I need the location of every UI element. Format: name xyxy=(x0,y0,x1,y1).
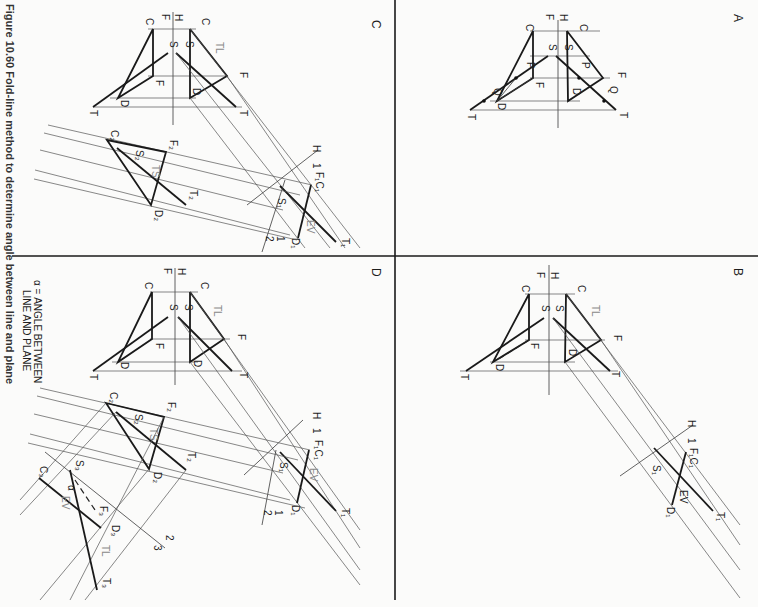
panel-b-label-s1: S₁ xyxy=(651,465,662,476)
panel-d-label-ff: F xyxy=(154,343,165,349)
panel-c-fold-1: 1 xyxy=(311,163,322,169)
panel-b-label-dt: D xyxy=(567,349,578,356)
panel-b-fold-f: F xyxy=(535,272,546,278)
panel-c-label-tl: TL xyxy=(214,42,225,54)
panel-d-fold-2: 2 xyxy=(262,510,273,516)
panel-c-label-df: D xyxy=(119,100,130,107)
panel-d-label-c3: C₃ xyxy=(38,466,49,477)
panel-a-fold-h: H xyxy=(558,14,569,21)
panel-b-letter: B xyxy=(731,268,745,276)
panel-b: B H F TL H 1 C C S S F F D D xyxy=(459,265,745,598)
panel-c-label-d2: D₂ xyxy=(153,210,164,221)
panel-c-fold-h: H xyxy=(173,14,184,21)
panel-b-fold-h1: H xyxy=(686,420,697,427)
panel-a-label-sf: S xyxy=(547,44,558,51)
panel-c-label-t2: T₂ xyxy=(188,190,199,200)
panel-b-label-tl: TL xyxy=(590,305,601,317)
panel-b-label-st: S xyxy=(554,305,565,312)
figure-caption: Figure 10.60 Fold-line method to determi… xyxy=(4,4,16,384)
panel-a-label-qf: Q xyxy=(492,88,503,96)
panel-b-label-d1: D₁ xyxy=(665,507,676,518)
panel-c-label-s2: S₂ xyxy=(134,150,145,161)
panel-d-fold-1: 1 xyxy=(311,428,322,434)
panel-c-label-f1c1: F₁C₁ xyxy=(314,172,325,193)
panel-a-letter: A xyxy=(731,14,745,22)
panel-a-label-ff: F xyxy=(534,82,545,88)
panel-c-fold-h1: H xyxy=(311,145,322,152)
panel-c-label-tf: T xyxy=(88,110,99,116)
panel-c-label-sf: S xyxy=(168,41,179,48)
panel-c-label-c2: C₂ xyxy=(109,130,120,141)
panel-d-fold-2b: 2 xyxy=(164,535,175,541)
panel-d-fold-h: H xyxy=(176,268,187,275)
panel-d-fold-3: 3 xyxy=(152,545,163,551)
panel-d-label-f3: F₃ xyxy=(98,506,109,516)
panel-d-label-d3: D₃ xyxy=(110,525,121,536)
panel-c-letter: C xyxy=(369,20,383,29)
panel-d-label-st: S xyxy=(183,304,194,311)
panel-d-fold-f: F xyxy=(162,268,173,274)
panel-b-label-df: D xyxy=(494,364,505,371)
panel-d-label-t3: T₃ xyxy=(101,578,112,588)
panel-d-label-ev3: EV xyxy=(60,496,71,510)
alpha-note-line2: LINE AND PLANE xyxy=(21,290,32,371)
panel-a-label-st: S xyxy=(563,44,574,51)
panel-c-label-ts: TS xyxy=(150,165,161,178)
panel-c-label-t1: T₁ xyxy=(340,238,351,248)
panel-c-label-cf: C xyxy=(144,18,155,25)
panel-d-label-ft: F xyxy=(236,334,247,340)
panel-b-label-t1: T₁ xyxy=(715,512,726,522)
panel-c-label-ft: F xyxy=(238,72,249,78)
panel-c-label-ev: EV xyxy=(305,220,316,234)
panel-d-label-f2: F₂ xyxy=(166,402,177,412)
panel-b-label-ft: F xyxy=(612,335,623,341)
panel-d-label-dt: D xyxy=(192,360,203,367)
panel-a-label-qt: Q xyxy=(608,86,619,94)
panel-d: D H F TL H 1 F₁C₁ S₁ EV D₁ T₁ 1 xyxy=(20,268,383,600)
panel-b-label-ev: EV xyxy=(678,490,689,504)
panel-a: A H F C C S S P P F F D Q Q D xyxy=(466,14,745,128)
panel-a-label-cf: C xyxy=(524,24,535,31)
panel-b-fold-1: 1 xyxy=(686,438,697,444)
panel-b-label-ct: C xyxy=(576,285,587,292)
panel-d-label-f1c1: F₁C₁ xyxy=(313,440,324,461)
panel-d-label-s2: S₂ xyxy=(133,414,144,425)
panel-c-label-f2: F₂ xyxy=(168,140,179,150)
panel-b-fold-h: H xyxy=(549,272,560,279)
drawing-canvas: Figure 10.60 Fold-line method to determi… xyxy=(0,0,758,607)
panel-d-label-s3: S₃ xyxy=(74,460,85,471)
panel-a-label-tf: T xyxy=(466,114,477,120)
panel-d-label-ct: C xyxy=(199,282,210,289)
panel-b-label-tf: T xyxy=(459,374,470,380)
panel-d-label-tt: T xyxy=(238,372,249,378)
panel-d-label-sf: S xyxy=(168,304,179,311)
panel-c: C H F TL H 1 F₁C₁ S₁ EV D₁ T₁ 1 xyxy=(34,12,383,252)
panel-a-label-df: D xyxy=(496,103,507,110)
panel-a-label-ft: F xyxy=(616,72,627,78)
panel-d-fold-1b: 1 xyxy=(273,510,284,516)
panel-d-label-tf: T xyxy=(88,374,99,380)
panel-c-label-tt: T xyxy=(238,110,249,116)
panel-b-label-tt: T xyxy=(610,371,621,377)
panel-a-label-tt: T xyxy=(618,112,629,118)
panel-b-label-ff: F xyxy=(529,343,540,349)
panel-c-label-dt: D xyxy=(191,88,202,95)
panel-c-label-ct: C xyxy=(200,18,211,25)
figure-page: Figure 10.60 Fold-line method to determi… xyxy=(0,0,758,607)
panel-d-label-cf: C xyxy=(143,282,154,289)
panel-d-label-s1: S₁ xyxy=(278,462,289,473)
panel-d-label-ev: EV xyxy=(308,468,319,482)
panel-d-label-t1: T₁ xyxy=(340,508,351,518)
panel-b-label-f1c1: F₁C₁ xyxy=(688,448,699,469)
panel-a-label-pt: P xyxy=(580,62,591,69)
panel-a-fold-f: F xyxy=(544,14,555,20)
panel-b-label-sf: S xyxy=(540,305,551,312)
panel-c-label-st: S xyxy=(184,41,195,48)
panel-d-label-tl3: TL xyxy=(100,545,111,557)
panel-d-fold-h1: H xyxy=(311,412,322,419)
panel-c-label-ff: F xyxy=(154,80,165,86)
panel-c-fold-2: 2 xyxy=(264,236,275,242)
panel-a-label-dt: D xyxy=(571,88,582,95)
panel-d-label-t2: T₂ xyxy=(186,452,197,462)
panel-d-label-c2: C₂ xyxy=(108,392,119,403)
